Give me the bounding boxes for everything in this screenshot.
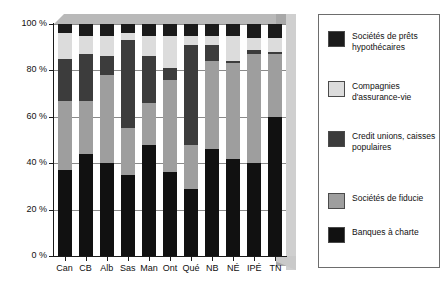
bar-segment — [205, 24, 219, 36]
bar-Qué — [184, 24, 198, 256]
bar-segment — [226, 36, 240, 62]
legend-label: Sociétés de fiducie — [352, 193, 438, 204]
bar-segment — [163, 68, 177, 80]
bar-segment — [184, 189, 198, 256]
bar-segment — [247, 163, 261, 256]
bar-segment — [163, 36, 177, 68]
bar-segment — [121, 33, 135, 40]
bar-segment — [205, 45, 219, 61]
bar-segment — [247, 54, 261, 163]
legend-item: Sociétés de prêts hypothécaires — [328, 31, 438, 52]
legend-swatch — [328, 81, 345, 97]
chart-screenshot: 0 %20 %40 %60 %80 %100 % CanCBAlbSasManO… — [0, 0, 448, 292]
bar-segment — [226, 61, 240, 63]
bar-segment — [58, 59, 72, 101]
bar-segment — [226, 24, 240, 36]
legend-item: Compagnies d'assurance-vie — [328, 81, 438, 102]
x-tick-mark — [254, 257, 255, 261]
bar-Ont — [163, 24, 177, 256]
bar-group — [54, 24, 286, 256]
legend-label: Credit unions, caisses populaires — [352, 131, 438, 152]
bar-segment — [100, 56, 114, 75]
chart-3d-top-face — [54, 14, 286, 24]
bar-segment — [226, 63, 240, 158]
legend-label: Sociétés de prêts hypothécaires — [352, 31, 438, 52]
bar-segment — [268, 38, 282, 52]
bar-segment — [142, 24, 156, 36]
bar-segment — [247, 38, 261, 50]
bar-Man — [142, 24, 156, 256]
bar-segment — [268, 52, 282, 54]
bar-TN — [268, 24, 282, 256]
x-tick-mark — [149, 257, 150, 261]
bar-segment — [268, 117, 282, 256]
plot-area — [54, 24, 286, 256]
bar-segment — [205, 149, 219, 256]
bar-segment — [58, 33, 72, 59]
bar-segment — [121, 128, 135, 174]
x-tick-mark — [191, 257, 192, 261]
bar-Alb — [100, 24, 114, 256]
x-tick-mark — [107, 257, 108, 261]
y-tick-mark — [49, 256, 54, 257]
legend-item: Banques à charte — [328, 227, 438, 243]
x-tick-mark — [170, 257, 171, 261]
bar-segment — [205, 61, 219, 149]
legend-swatch — [328, 227, 345, 243]
bar-segment — [121, 40, 135, 128]
bar-segment — [184, 145, 198, 189]
y-tick-label: 80 % — [26, 65, 47, 74]
bar-segment — [205, 36, 219, 45]
bar-segment — [184, 45, 198, 145]
bar-NB — [205, 24, 219, 256]
stacked-bar-chart: 0 %20 %40 %60 %80 %100 % CanCBAlbSasManO… — [0, 0, 312, 292]
bar-segment — [100, 163, 114, 256]
x-tick-label-TN: TN — [259, 263, 291, 273]
bar-segment — [100, 24, 114, 36]
bar-segment — [163, 24, 177, 36]
bar-segment — [79, 24, 93, 36]
legend-swatch — [328, 31, 345, 47]
bar-segment — [79, 36, 93, 55]
bar-segment — [121, 175, 135, 256]
bar-Sas — [121, 24, 135, 256]
bar-segment — [58, 101, 72, 171]
bar-segment — [79, 54, 93, 100]
bar-segment — [142, 36, 156, 57]
bar-segment — [142, 103, 156, 145]
bar-segment — [58, 170, 72, 256]
legend-item: Credit unions, caisses populaires — [328, 131, 438, 152]
bar-segment — [268, 24, 282, 38]
bar-segment — [268, 54, 282, 117]
bar-segment — [100, 36, 114, 57]
bar-segment — [142, 145, 156, 256]
bar-segment — [184, 36, 198, 45]
legend-label: Banques à charte — [352, 227, 438, 238]
legend-swatch — [328, 193, 345, 209]
bar-segment — [100, 75, 114, 163]
x-tick-mark — [128, 257, 129, 261]
bar-Can — [58, 24, 72, 256]
bar-CB — [79, 24, 93, 256]
bar-segment — [247, 24, 261, 38]
y-tick-label: 0 % — [31, 251, 47, 260]
bar-segment — [79, 101, 93, 154]
bar-segment — [184, 24, 198, 36]
x-tick-mark — [233, 257, 234, 261]
x-tick-mark — [86, 257, 87, 261]
bar-segment — [247, 50, 261, 55]
chart-3d-right-rim — [286, 14, 296, 270]
bar-segment — [163, 80, 177, 173]
bar-segment — [121, 24, 135, 33]
x-tick-mark — [65, 257, 66, 261]
legend-label: Compagnies d'assurance-vie — [352, 81, 438, 102]
bar-IPÉ — [247, 24, 261, 256]
legend: Sociétés de prêts hypothécairesCompagnie… — [318, 14, 440, 268]
bar-segment — [142, 56, 156, 102]
y-tick-label: 100 % — [21, 19, 47, 28]
y-tick-label: 60 % — [26, 112, 47, 121]
y-tick-label: 40 % — [26, 158, 47, 167]
bar-NÉ — [226, 24, 240, 256]
legend-swatch — [328, 131, 345, 147]
x-tick-mark — [212, 257, 213, 261]
